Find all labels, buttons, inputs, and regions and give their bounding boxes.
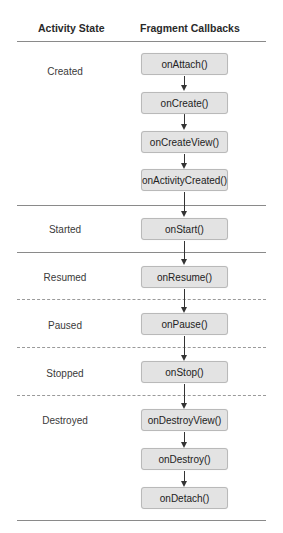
divider-resumed-paused (17, 299, 266, 300)
connector (184, 289, 185, 307)
callback-on-start: onStart() (141, 218, 228, 240)
callback-on-activity-created: onActivityCreated() (141, 169, 228, 191)
callback-on-resume: onResume() (141, 266, 228, 288)
header-activity-state: Activity State (38, 22, 105, 34)
callback-on-create-view: onCreateView() (141, 131, 228, 153)
divider-stopped-destroyed (17, 395, 266, 396)
callback-on-attach: onAttach() (141, 53, 228, 75)
callback-on-detach: onDetach() (141, 487, 228, 509)
connector (184, 154, 185, 163)
callback-on-pause: onPause() (141, 313, 228, 335)
connector (184, 336, 185, 355)
state-destroyed: Destroyed (20, 415, 110, 426)
arrow-down-icon (181, 211, 187, 217)
connector (184, 432, 185, 442)
header-fragment-callbacks: Fragment Callbacks (140, 22, 240, 34)
state-resumed: Resumed (20, 272, 110, 283)
callback-on-destroy: onDestroy() (141, 448, 228, 470)
callback-on-destroy-view: onDestroyView() (141, 409, 228, 431)
arrow-down-icon (181, 124, 187, 130)
callback-on-create: onCreate() (141, 92, 228, 114)
state-stopped: Stopped (20, 368, 110, 379)
header-divider (17, 41, 266, 42)
footer-divider (17, 520, 266, 521)
connector (184, 192, 185, 211)
divider-created-started (17, 205, 266, 206)
divider-started-resumed (17, 252, 266, 253)
connector (184, 241, 185, 259)
connector (184, 384, 185, 403)
state-paused: Paused (20, 320, 110, 331)
callback-on-stop: onStop() (141, 361, 228, 383)
arrow-down-icon (181, 85, 187, 91)
state-started: Started (20, 224, 110, 235)
arrow-down-icon (181, 259, 187, 265)
connector (184, 471, 185, 481)
divider-paused-stopped (17, 347, 266, 348)
connector (184, 114, 185, 124)
state-created: Created (20, 66, 110, 77)
